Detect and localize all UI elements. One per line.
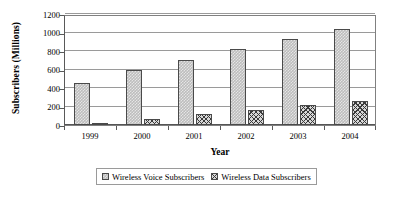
chart-legend: Wireless Voice SubscribersWireless Data … bbox=[96, 168, 317, 185]
bar bbox=[334, 29, 350, 125]
y-axis-tick-label: 1000 bbox=[26, 29, 60, 38]
gridline bbox=[65, 13, 375, 14]
bar bbox=[144, 119, 160, 125]
x-axis-tick-label: 2004 bbox=[324, 131, 376, 142]
x-axis-tick bbox=[220, 126, 221, 130]
x-axis-tick-label: 2001 bbox=[168, 131, 220, 142]
bar bbox=[282, 39, 298, 125]
bars-layer bbox=[65, 16, 375, 125]
x-axis-tick bbox=[116, 126, 117, 130]
legend-entry: Wireless Data Subscribers bbox=[211, 172, 310, 182]
legend-swatch-icon bbox=[211, 173, 218, 180]
bar bbox=[300, 105, 316, 125]
y-axis-tick-label: 1200 bbox=[26, 11, 60, 20]
x-axis-tick bbox=[375, 126, 376, 130]
y-axis-title: Subscribers (Millions) bbox=[8, 3, 24, 133]
y-axis-tick-label: 800 bbox=[26, 48, 60, 57]
y-axis-tick-label: 0 bbox=[26, 122, 60, 131]
x-axis-tick bbox=[324, 126, 325, 130]
bar bbox=[248, 110, 264, 125]
bar-chart: Subscribers (Millions) 02004006008001000… bbox=[0, 0, 406, 204]
x-axis-tick bbox=[168, 126, 169, 130]
x-axis-tick-label: 2000 bbox=[116, 131, 168, 142]
bar bbox=[92, 123, 108, 125]
y-axis-tick-label: 400 bbox=[26, 85, 60, 94]
x-axis-tick-labels: 199920002001200220032004 bbox=[64, 131, 376, 143]
bar bbox=[352, 101, 368, 126]
x-axis-tick-label: 1999 bbox=[64, 131, 116, 142]
x-axis-title: Year bbox=[64, 147, 376, 157]
plot-area bbox=[64, 15, 376, 126]
x-axis-tick bbox=[272, 126, 273, 130]
legend-swatch-icon bbox=[102, 173, 109, 180]
x-axis-tick-label: 2002 bbox=[220, 131, 272, 142]
y-axis-tick-label: 600 bbox=[26, 66, 60, 75]
bar bbox=[196, 114, 212, 125]
x-axis-tick bbox=[64, 126, 65, 130]
legend-label: Wireless Voice Subscribers bbox=[112, 172, 204, 182]
bar bbox=[230, 49, 246, 125]
bar bbox=[178, 60, 194, 125]
bar bbox=[74, 83, 90, 125]
bar bbox=[126, 70, 142, 125]
x-axis-tick-label: 2003 bbox=[272, 131, 324, 142]
y-axis-tick-label: 200 bbox=[26, 103, 60, 112]
y-axis-tick-labels: 020040060080010001200 bbox=[26, 10, 60, 130]
legend-label: Wireless Data Subscribers bbox=[221, 172, 310, 182]
legend-entry: Wireless Voice Subscribers bbox=[102, 172, 204, 182]
